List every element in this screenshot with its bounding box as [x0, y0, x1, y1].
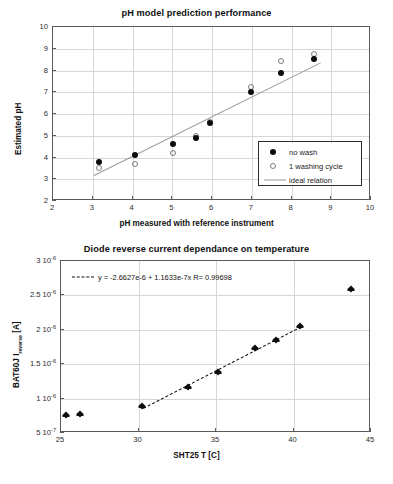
legend-item-label: 1 washing cycle — [289, 162, 343, 171]
gridline-horizontal — [61, 399, 369, 400]
y-tick-label: 2.5 10-6 — [22, 289, 56, 300]
legend-item-label: no wash — [289, 148, 317, 157]
y-tick-exponent: -7 — [51, 427, 56, 433]
gridline-horizontal — [53, 49, 369, 50]
diode-fit-annotation: y = -2.6627e-6 + 1.1633e-7x R= 0.99698 — [72, 271, 302, 283]
gridline-horizontal — [53, 71, 369, 72]
diode-y-axis-title-main: BAT60J I — [12, 354, 21, 388]
tick-x — [211, 196, 212, 200]
y-tick-label: 3 10-6 — [22, 255, 56, 266]
figure-diode-current: Diode reverse current dependance on temp… — [0, 238, 393, 478]
y-tick-exponent: -6 — [51, 289, 56, 295]
y-tick-exponent: -6 — [51, 324, 56, 330]
y-tick-label: 5 10-7 — [22, 427, 56, 438]
tick-y — [60, 363, 64, 364]
x-tick-label: 35 — [211, 435, 219, 444]
tick-y — [52, 70, 56, 71]
gridline-vertical — [133, 27, 134, 199]
ph-x-axis-title: pH measured with reference instrument — [0, 219, 393, 228]
y-tick-label: 10 — [30, 22, 48, 31]
data-point-diamond — [347, 285, 354, 292]
x-tick-label: 6 — [209, 203, 213, 212]
gridline-vertical — [93, 27, 94, 199]
tick-y — [60, 398, 64, 399]
ph-chart-title: pH model prediction performance — [0, 8, 393, 18]
data-point-diamond — [76, 411, 83, 418]
y-tick-label: 6 — [30, 109, 48, 118]
y-tick-label: 7 — [30, 87, 48, 96]
x-tick-label: 3 — [90, 203, 94, 212]
diode-y-axis-title-unit: [A] — [12, 321, 21, 335]
data-point-filled — [311, 56, 317, 62]
gridline-vertical — [294, 261, 295, 431]
figure-ph-model: pH model prediction performance 23456789… — [0, 0, 393, 238]
x-tick-label: 30 — [133, 435, 141, 444]
gridline-horizontal — [61, 364, 369, 365]
y-tick-exponent: -6 — [51, 255, 56, 261]
data-point-diamond — [62, 412, 69, 419]
gridline-horizontal — [53, 136, 369, 137]
y-tick-label: 8 — [30, 65, 48, 74]
tick-x — [251, 196, 252, 200]
tick-y — [60, 432, 64, 433]
y-tick-mantissa: 1.5 10 — [30, 359, 51, 368]
y-tick-mantissa: 2 10 — [36, 325, 51, 334]
y-tick-mantissa: 3 10 — [36, 256, 51, 265]
legend-item-filled-circle[interactable]: no wash — [259, 145, 361, 159]
tick-x — [370, 196, 371, 200]
tick-x — [215, 428, 216, 432]
y-tick-label: 5 — [30, 130, 48, 139]
tick-y — [60, 294, 64, 295]
data-point-filled — [248, 89, 254, 95]
ph-y-axis-title: Estimated pH — [14, 103, 23, 155]
gridline-horizontal — [61, 330, 369, 331]
diode-y-axis-title-sub: reverse — [17, 335, 23, 353]
tick-y — [52, 178, 56, 179]
legend-marker-open-circle-icon — [270, 163, 276, 169]
y-tick-label: 2 — [30, 196, 48, 205]
gridline-horizontal — [53, 92, 369, 93]
y-tick-label: 2 10-6 — [22, 324, 56, 335]
tick-y — [60, 329, 64, 330]
x-tick-label: 2 — [50, 203, 54, 212]
data-point-open — [170, 150, 176, 156]
tick-x — [171, 196, 172, 200]
x-tick-label: 8 — [288, 203, 292, 212]
x-tick-label: 45 — [366, 435, 374, 444]
y-tick-label: 1 10-6 — [22, 392, 56, 403]
tick-y — [52, 48, 56, 49]
diode-chart-title: Diode reverse current dependance on temp… — [0, 244, 393, 254]
tick-y — [52, 157, 56, 158]
data-point-filled — [170, 141, 176, 147]
x-tick-label: 40 — [288, 435, 296, 444]
tick-y — [52, 26, 56, 27]
legend-item-open-circle[interactable]: 1 washing cycle — [259, 159, 361, 173]
data-point-filled — [96, 159, 102, 165]
diode-fit-equation: y = -2.6627e-6 + 1.1633e-7x R= 0.99698 — [98, 273, 232, 282]
y-tick-mantissa: 1 10 — [36, 394, 51, 403]
y-tick-label: 9 — [30, 43, 48, 52]
y-tick-label: 1.5 10-6 — [22, 358, 56, 369]
dashed-line-icon — [72, 277, 94, 278]
tick-x — [293, 428, 294, 432]
y-tick-exponent: -6 — [51, 392, 56, 398]
diode-y-axis-title: BAT60J Ireverse [A] — [12, 321, 23, 388]
x-tick-label: 5 — [169, 203, 173, 212]
x-tick-label: 9 — [328, 203, 332, 212]
ph-legend[interactable]: no wash1 washing cycleideal relation — [258, 141, 362, 186]
gridline-vertical — [172, 27, 173, 199]
gridline-horizontal — [53, 114, 369, 115]
legend-item-label: ideal relation — [289, 176, 332, 185]
data-point-filled — [278, 70, 284, 76]
tick-y — [52, 113, 56, 114]
tick-x — [370, 428, 371, 432]
tick-x — [132, 196, 133, 200]
y-tick-exponent: -6 — [51, 358, 56, 364]
legend-item-line[interactable]: ideal relation — [259, 173, 361, 187]
data-point-filled — [207, 120, 213, 126]
tick-y — [52, 135, 56, 136]
gridline-horizontal — [61, 295, 369, 296]
tick-y — [52, 91, 56, 92]
legend-marker-filled-circle-icon — [270, 149, 276, 155]
diode-x-axis-title: SHT25 T [C] — [0, 451, 393, 460]
